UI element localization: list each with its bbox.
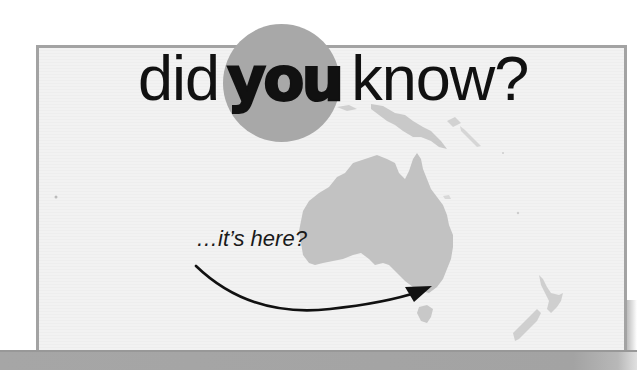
headline-word-you: you (227, 44, 341, 114)
did-you-know-banner: didyouknow? …it’s here? (0, 0, 637, 370)
headline-word-know: know? (351, 43, 528, 113)
new-zealand-landmass (539, 275, 563, 313)
australia-landmass (299, 153, 453, 293)
frame-shadow (627, 300, 637, 352)
caption-text: …it’s here? (196, 226, 307, 252)
headline-word-did: did (138, 43, 219, 113)
bottom-bar (0, 350, 637, 370)
tasmania-landmass (417, 305, 433, 323)
headline: didyouknow? (138, 38, 528, 118)
